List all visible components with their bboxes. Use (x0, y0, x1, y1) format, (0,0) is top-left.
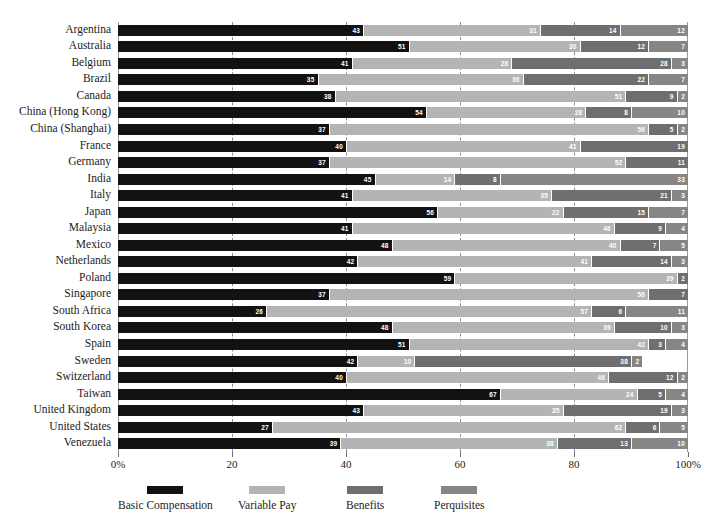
bar-segment-value: 38 (546, 440, 557, 447)
bar-segment-value: 15 (637, 209, 648, 216)
bar-row: Netherlands4241143 (118, 256, 688, 267)
category-label: South Korea (53, 319, 111, 333)
bar-segment-variable: 39 (454, 273, 676, 284)
bar-segment-value: 2 (681, 275, 688, 282)
x-tick (574, 452, 575, 457)
category-label: Japan (85, 204, 111, 218)
legend-label: Perquisites (434, 498, 484, 512)
x-tick-label: 80 (569, 458, 580, 471)
bar-segment-benefits: 7 (648, 289, 688, 300)
bar-segment-benefits: 7 (620, 240, 660, 251)
legend-item-variable[interactable]: Variable Pay (238, 486, 296, 512)
bar-segment-value: 4 (681, 341, 688, 348)
bar-segment-benefits: 14 (540, 25, 620, 36)
bar-segment-value: 10 (677, 109, 688, 116)
bar-segment-value: 46 (598, 374, 609, 381)
bar-segment-value: 54 (415, 109, 426, 116)
bar-segment-value: 41 (569, 143, 580, 150)
chart-legend: Basic CompensationVariable PayBenefitsPe… (118, 486, 598, 516)
bar-segment-variable: 41 (346, 141, 580, 152)
bar-segment-value: 22 (637, 76, 648, 83)
bar-segment-variable: 35 (352, 190, 552, 201)
bar-row: Sweden4210382 (118, 356, 688, 367)
bar-segment-variable: 24 (500, 389, 637, 400)
bar-segment-value: 3 (681, 192, 688, 199)
bar-segment-value: 10 (660, 324, 671, 331)
bar-segment-perqs: 4 (665, 223, 688, 234)
bar-segment-value: 40 (335, 374, 346, 381)
bar-segment-value: 14 (444, 176, 455, 183)
bar-segment-perqs: 3 (671, 322, 688, 333)
bar-segment-perqs: 12 (620, 25, 688, 36)
bar-segment-value: 26 (256, 308, 267, 315)
bar-segment-value: 56 (637, 291, 648, 298)
legend-item-perqs[interactable]: Perquisites (434, 486, 484, 512)
bar-segment-variable: 41 (357, 256, 591, 267)
bar-segment-benefits: 21 (551, 190, 671, 201)
bar-segment-value: 19 (677, 143, 688, 150)
legend-item-benefits[interactable]: Benefits (346, 486, 384, 512)
legend-item-basic[interactable]: Basic Compensation (118, 486, 213, 512)
bar-segment-variable: 35 (363, 405, 563, 416)
bar-segment-value: 24 (626, 391, 637, 398)
x-axis: 0%20406080100% (118, 452, 688, 478)
bar-segment-basic: 41 (118, 190, 352, 201)
bar-segment-value: 9 (670, 93, 677, 100)
category-label: China (Hong Kong) (19, 104, 111, 118)
bar-segment-value: 7 (681, 43, 688, 50)
bar-segment-perqs: 2 (631, 356, 642, 367)
bar-segment-value: 3 (681, 258, 688, 265)
bar-segment-value: 27 (261, 424, 272, 431)
bar-segment-value: 9 (658, 225, 665, 232)
bar-segment-value: 19 (660, 407, 671, 414)
bar-segment-value: 7 (681, 209, 688, 216)
category-label: Canada (77, 88, 111, 102)
bar-segment-value: 3 (681, 407, 688, 414)
bar-segment-benefits: 28 (511, 58, 671, 69)
x-tick (232, 452, 233, 457)
bar-segment-value: 31 (529, 27, 540, 34)
bar-segment-value: 5 (658, 391, 665, 398)
bar-row: Italy4135213 (118, 190, 688, 201)
bar-segment-variable: 56 (329, 124, 648, 135)
bar-segment-value: 3 (681, 60, 688, 67)
bar-segment-variable: 46 (346, 372, 608, 383)
bar-segment-basic: 35 (118, 74, 318, 85)
plot-area: Argentina43311412Australia5130127Belgium… (118, 22, 688, 452)
bar-row: India4514833 (118, 174, 688, 185)
legend-swatch-benefits (347, 486, 383, 494)
bar-segment-perqs: 7 (648, 74, 688, 85)
bar-segment-benefits: 11 (625, 157, 688, 168)
bar-segment-variable: 51 (335, 91, 626, 102)
bar-segment-value: 11 (678, 159, 688, 166)
bar-row: Venezuela39381310 (118, 438, 688, 449)
bar-segment-basic: 40 (118, 372, 346, 383)
bar-segment-perqs: 3 (671, 58, 688, 69)
bar-row: Japan5622157 (118, 207, 688, 218)
category-label: Italy (90, 187, 111, 201)
bar-segment-variable: 56 (329, 289, 648, 300)
bar-segment-variable: 57 (266, 306, 591, 317)
bar-segment-basic: 39 (118, 438, 340, 449)
bar-segment-perqs: 7 (648, 207, 688, 218)
bar-segment-variable: 36 (318, 74, 523, 85)
bar-segment-value: 43 (352, 27, 363, 34)
bar-segment-value: 41 (580, 258, 591, 265)
bar-segment-benefits: 13 (557, 438, 631, 449)
bar-segment-benefits: 19 (563, 405, 671, 416)
bar-segment-value: 35 (541, 192, 552, 199)
category-label: United Kingdom (33, 402, 111, 416)
category-label: Singapore (64, 286, 111, 300)
bar-segment-perqs: 5 (659, 422, 688, 433)
bar-segment-basic: 37 (118, 157, 329, 168)
bar-segment-benefits: 2 (677, 273, 688, 284)
bar-segment-variable: 14 (375, 174, 455, 185)
stacked-bar-chart: Argentina43311412Australia5130127Belgium… (0, 0, 718, 525)
bar-segment-value: 5 (681, 242, 688, 249)
bar-segment-variable: 31 (363, 25, 540, 36)
bar-segment-benefits: 38 (414, 356, 631, 367)
bar-row: Taiwan672454 (118, 389, 688, 400)
bar-segment-value: 39 (330, 440, 341, 447)
bar-row: Poland59392 (118, 273, 688, 284)
bar-segment-benefits: 9 (614, 223, 665, 234)
